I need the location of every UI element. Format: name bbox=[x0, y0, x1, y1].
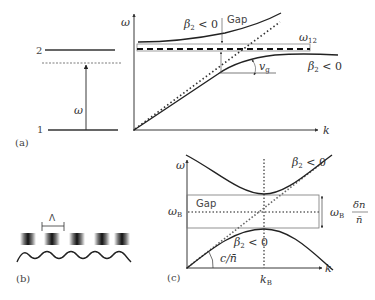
y-axis-label: ω bbox=[121, 16, 130, 29]
gap-width-formula: ωB δn n̄ bbox=[330, 199, 368, 225]
panel-c-label: (c) bbox=[167, 272, 181, 283]
panel-a-label: (a) bbox=[15, 137, 29, 148]
resonance-omega12-label: ω12 bbox=[299, 31, 317, 45]
dispersion-figure: 2 ω 1 (a) ω k β2 < 0 Gap ω12 bbox=[0, 0, 375, 300]
panel-a-energy-levels: 2 ω 1 (a) bbox=[15, 45, 122, 148]
grating-blob bbox=[20, 233, 36, 245]
grating-blob bbox=[69, 233, 85, 245]
refractive-index-wave bbox=[17, 252, 131, 263]
light-line-dotted bbox=[135, 22, 280, 129]
transition-frequency-label: ω bbox=[74, 104, 83, 117]
gap-label: Gap bbox=[227, 14, 247, 25]
upper-branch-beta-label: β2 < 0 bbox=[291, 156, 326, 170]
upper-branch-beta-label: β2 < 0 bbox=[183, 18, 218, 32]
x-axis-label: k bbox=[323, 124, 330, 137]
y-axis-label: ω bbox=[176, 159, 185, 172]
bragg-frequency-label: ωB bbox=[168, 205, 182, 219]
panel-b-label: (b) bbox=[16, 273, 30, 284]
period-lambda-label: Λ bbox=[49, 213, 56, 223]
lower-branch-beta-label: β2 < 0 bbox=[307, 60, 342, 74]
gap-width-numerator: δn bbox=[353, 199, 365, 210]
level-1-label: 1 bbox=[37, 124, 43, 135]
level-2-label: 2 bbox=[36, 45, 42, 56]
grating-blob bbox=[94, 233, 110, 245]
gap-label: Gap bbox=[196, 198, 216, 209]
slope-angle-arc-icon bbox=[209, 252, 213, 268]
grating-blobs bbox=[20, 233, 130, 245]
bragg-wavevector-label: kB bbox=[260, 273, 272, 287]
group-velocity-label: vg bbox=[259, 60, 270, 74]
slope-c-over-n-label: c/n̄ bbox=[220, 252, 237, 265]
lower-branch-beta-label: β2 < 0 bbox=[233, 236, 268, 250]
panel-b-grating: Λ (b) bbox=[16, 213, 131, 284]
gap-width-omega: ωB bbox=[330, 206, 344, 220]
panel-c-bragg-chart: ω k Gap ωB kB β2 < 0 β2 < 0 c/n̄ ωB δn n… bbox=[167, 155, 368, 287]
gap-width-denominator: n̄ bbox=[356, 214, 362, 225]
panel-a-dispersion-chart: ω k β2 < 0 Gap ω12 β2 < 0 vg bbox=[121, 13, 342, 137]
grating-blob bbox=[44, 233, 60, 245]
grating-blob bbox=[114, 233, 130, 245]
